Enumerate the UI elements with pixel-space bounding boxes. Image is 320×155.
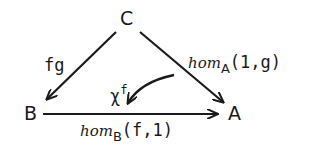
node-a: A [228, 104, 241, 123]
node-c: C [120, 9, 133, 28]
hom-a-subscript: A [221, 61, 230, 76]
label-fg: fg [44, 57, 64, 74]
label-chi: χf [110, 88, 127, 105]
hom-b-subscript: B [113, 129, 122, 144]
label-hom-a: homA(1,g) [188, 54, 281, 71]
hom-b-name: hom [80, 122, 113, 140]
hom-a-name: hom [188, 54, 221, 72]
hom-b-args: (f,1) [122, 120, 173, 140]
hom-a-args: (1,g) [230, 52, 281, 72]
arrow-chi [128, 75, 174, 103]
chi-base: χ [110, 86, 120, 106]
chi-superscript: f [120, 83, 127, 97]
label-hom-b: homB(f,1) [80, 122, 173, 139]
node-b: B [24, 104, 37, 123]
